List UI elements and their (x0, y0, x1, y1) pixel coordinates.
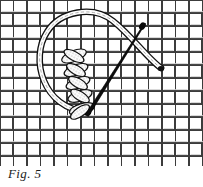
figure-caption: Fig. 5 (8, 166, 41, 182)
figure-container: Fig. 5 (0, 0, 203, 187)
illustration-plate (0, 0, 203, 166)
thread-tail-tip (158, 66, 164, 71)
stitch-diagram-svg (0, 0, 203, 166)
fabric-ground (0, 0, 203, 166)
